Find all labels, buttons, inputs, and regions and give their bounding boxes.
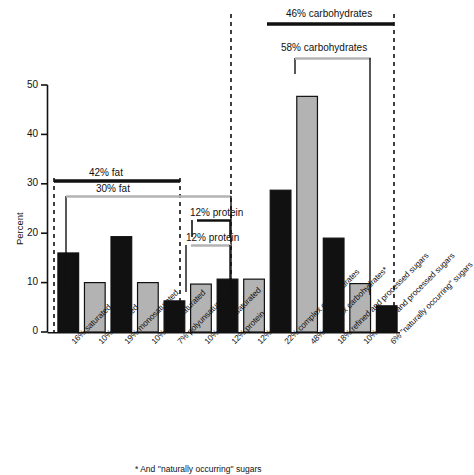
- annotation-12-percent-protein-black: 12% protein: [190, 207, 243, 218]
- y-axis-label-20: 20: [14, 227, 38, 238]
- annotation-42-percent-fat: 42% fat: [89, 167, 123, 178]
- chart-footnote: * And ''naturally occurring'' sugars: [135, 464, 262, 474]
- annotation-46-percent-carbohydrates: 46% carbohydrates: [286, 8, 372, 19]
- y-axis-label-0: 0: [14, 325, 38, 336]
- annotation-30-percent-fat: 30% fat: [96, 183, 130, 194]
- bar: [58, 253, 79, 332]
- y-axis-label-30: 30: [14, 177, 38, 188]
- bar: [297, 96, 318, 332]
- y-axis-label-10: 10: [14, 276, 38, 287]
- annotation-58-percent-carbohydrates: 58% carbohydrates: [281, 42, 367, 53]
- y-axis-label-50: 50: [14, 79, 38, 90]
- annotation-12-percent-protein-gray: 12% protein: [186, 232, 239, 243]
- y-axis-label-40: 40: [14, 128, 38, 139]
